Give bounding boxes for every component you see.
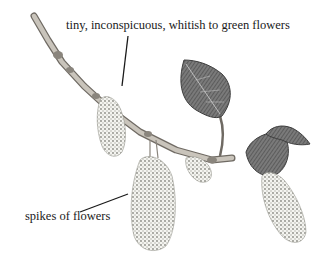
botanical-illustration: tiny, inconspicuous, whitish to green fl… <box>0 0 328 268</box>
pointer-line-top <box>122 36 128 86</box>
catkin-upper-left <box>97 97 125 157</box>
right-leaves <box>246 126 310 176</box>
catkin-large <box>131 140 175 251</box>
upper-leaf <box>181 60 230 156</box>
twig-drawing <box>0 0 328 268</box>
flowers-label: tiny, inconspicuous, whitish to green fl… <box>66 19 290 32</box>
spikes-label: spikes of flowers <box>25 210 110 223</box>
catkin-right <box>262 173 306 243</box>
